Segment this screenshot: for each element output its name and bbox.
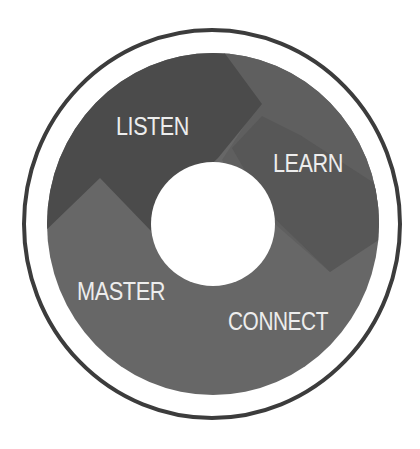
label-master: MASTER [77,277,165,305]
label-listen: LISTEN [116,112,189,140]
label-learn: LEARN [273,149,343,177]
center-hole [151,162,275,286]
label-connect: CONNECT [228,307,328,335]
cycle-ring-diagram: LISTEN LEARN CONNECT MASTER [0,0,420,449]
